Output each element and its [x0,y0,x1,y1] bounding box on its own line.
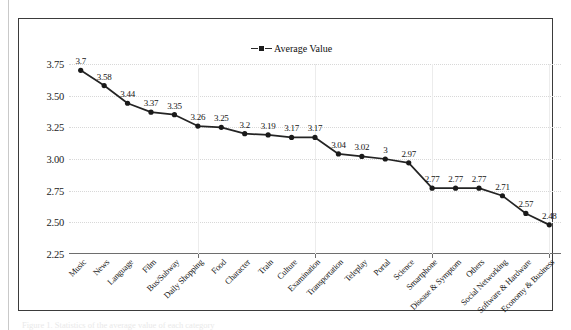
figure-page: Average Value 2.252.502.753.003.253.503.… [0,0,571,330]
plot-area: 2.252.502.753.003.253.503.753.73.583.443… [69,64,561,254]
data-point-label: 2.71 [495,182,510,192]
data-point-label: 2.77 [448,174,463,184]
data-point-label: 3.19 [261,121,276,131]
data-point-label: 3.26 [191,112,206,122]
x-axis-tick-label: Music [66,257,88,279]
y-axis-tick-label: 2.25 [46,249,64,260]
data-point-label: 3.2 [240,120,250,130]
data-point-label: 3.25 [214,113,229,123]
y-axis-tick-label: 3.25 [46,122,64,133]
data-point-label: 3.17 [284,123,299,133]
y-axis-tick-label: 3.75 [46,59,64,70]
legend-line-icon [265,48,272,49]
figure-caption: Figure 1. Statistics of the average valu… [22,320,522,330]
data-point-label: 2.97 [401,149,416,159]
x-axis-tick-label: News [91,257,111,277]
x-axis-tick-label: Character [222,257,251,286]
series-average-value [69,64,561,254]
figure-frame: Average Value 2.252.502.753.003.253.503.… [18,18,553,311]
data-point-label: 3.7 [76,56,86,66]
data-point-label: 3.35 [167,101,182,111]
data-point-label: 2.77 [425,174,440,184]
data-point-label: 3.17 [308,123,323,133]
x-axis-tick-label: Food [209,257,228,276]
y-axis-tick-label: 3.00 [46,154,64,165]
x-axis-tick-label: Portal [372,257,393,278]
data-point-label: 3.04 [331,140,346,150]
chart-legend: Average Value [251,43,332,54]
y-axis-tick-label: 2.50 [46,217,64,228]
legend-square-marker-icon [259,46,264,51]
data-point-label: 2.57 [519,199,534,209]
data-point-label: 3 [383,145,387,155]
y-axis-tick-label: 3.50 [46,90,64,101]
data-point-label: 2.77 [472,174,487,184]
x-axis-tick-label: Film [140,257,158,275]
data-point-label: 2.48 [542,211,557,221]
data-point-label: 3.44 [120,89,135,99]
y-axis-tick-label: 2.75 [46,185,64,196]
x-axis-tick-label: Train [256,257,275,276]
data-point-label: 3.37 [144,98,159,108]
plot-inner: 2.252.502.753.003.253.503.753.73.583.443… [69,64,561,254]
data-point-label: 3.02 [355,142,370,152]
x-axis-tick-label: Teleplay [342,257,369,284]
page-gutter-rule [8,0,9,330]
legend-label: Average Value [274,43,332,54]
legend-line-icon [251,48,258,49]
data-point-label: 3.58 [97,72,112,82]
